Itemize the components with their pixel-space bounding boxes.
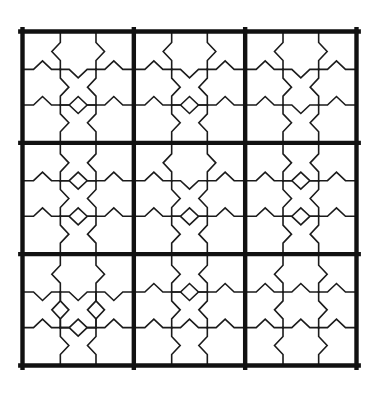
cell-1-1-edge-vC-L bbox=[172, 216, 181, 252]
cell-1-0-edge-vB-L bbox=[60, 181, 68, 217]
cell-2-2-edge-vC-R bbox=[319, 328, 328, 364]
cell-0-1-edge-h1-M bbox=[172, 69, 208, 78]
cell-0-2-edge-vC-L bbox=[283, 105, 292, 141]
cell-0-1-edge-vC-L bbox=[172, 105, 181, 141]
cell-1-0-edge-h1-M-b bbox=[60, 181, 96, 190]
cell-0-0-edge-vB-L bbox=[60, 69, 68, 105]
cell-1-1-edge-h2-M-a bbox=[172, 208, 208, 217]
cell-0-1-edge-h2-R bbox=[207, 96, 243, 105]
cell-0-0-edge-h1-L bbox=[25, 61, 61, 69]
cell-1-2-edge-vB-L bbox=[283, 181, 292, 217]
cell-2-2-edge-h1-M bbox=[283, 284, 319, 293]
cell-2-1-edge-vC-L bbox=[172, 328, 181, 364]
cell-1-0-edge-vA-L bbox=[60, 145, 68, 181]
cell-0-0-edge-h2-M-a bbox=[60, 96, 96, 105]
cell-2-2-edge-vB-R bbox=[319, 292, 328, 328]
cell-0-0-edge-vB-R bbox=[87, 69, 96, 105]
cell-2-0-edge-h1-M bbox=[60, 292, 96, 301]
cell-0-2-edge-h2-M bbox=[283, 105, 319, 114]
cell-1-0-edge-h2-M-a bbox=[60, 208, 96, 217]
cell-0-2-edge-h1-L bbox=[247, 61, 283, 69]
cell-2-1-edge-h2-M bbox=[172, 319, 208, 328]
cell-0-2-edge-vB-R bbox=[310, 69, 319, 105]
cell-2-0-edge-vC-L bbox=[60, 328, 68, 364]
cell-2-2-edge-h2-L bbox=[247, 319, 283, 328]
cell-2-2-edge-h2-M bbox=[283, 319, 319, 328]
cell-1-1-edge-vC-R bbox=[199, 216, 208, 252]
cell-1-2-edge-vA-L bbox=[283, 145, 292, 181]
cell-0-1-edge-vB-L bbox=[172, 69, 181, 105]
cell-2-1-edge-h2-L bbox=[136, 319, 172, 328]
cell-0-2-edge-h1-R bbox=[319, 61, 355, 69]
cell-2-1-edge-vC-R bbox=[199, 328, 208, 364]
cell-2-0-edge-h2-M-a bbox=[60, 319, 96, 328]
cell-2-1-edge-h2-R bbox=[207, 319, 243, 328]
cell-2-0-edge-vC-R bbox=[87, 328, 96, 364]
tiling-svg bbox=[0, 0, 378, 404]
cell-1-2-edge-vB-R bbox=[310, 181, 319, 217]
cell-0-1-edge-h2-M-b bbox=[172, 105, 208, 114]
cell-0-0-edge-h1-M bbox=[60, 69, 96, 78]
cell-1-2-edge-vC-R bbox=[310, 216, 319, 252]
cell-1-2-edge-vA-R bbox=[310, 145, 319, 181]
cell-1-1-edge-h1-M bbox=[172, 181, 208, 190]
cell-1-0-edge-h1-R bbox=[96, 172, 132, 181]
cell-0-1-edge-vB-R bbox=[199, 69, 208, 105]
cell-1-0-edge-h2-R bbox=[96, 208, 132, 217]
cell-1-1-edge-h1-L bbox=[136, 172, 172, 181]
cell-2-1-edge-vB-L bbox=[172, 292, 181, 328]
cell-2-1-edge-h1-L bbox=[136, 284, 172, 293]
cell-2-1-edge-h1-M-a bbox=[172, 284, 208, 293]
cell-2-0-edge-h2-R bbox=[96, 319, 132, 328]
cell-1-2-edge-h1-L bbox=[247, 172, 283, 181]
cell-1-0-edge-h1-M-a bbox=[60, 172, 96, 181]
cell-0-1-edge-h1-R bbox=[207, 61, 243, 69]
cell-2-2-edge-h1-L bbox=[247, 284, 283, 293]
cell-2-2-edge-vC-L bbox=[275, 328, 284, 364]
cell-1-1-edge-vB-L bbox=[172, 181, 181, 217]
cell-2-1-edge-vB-R bbox=[199, 292, 208, 328]
cell-2-0-edge-h2-M-b bbox=[60, 328, 96, 337]
cell-0-1-edge-vA-R bbox=[207, 34, 216, 70]
cell-0-2-edge-h2-R bbox=[319, 96, 355, 105]
cell-0-1-edge-vA-L bbox=[163, 34, 172, 70]
cell-0-1-edge-h2-L bbox=[136, 96, 172, 105]
cell-1-1-edge-vB-R bbox=[199, 181, 208, 217]
cell-1-0-edge-vC-R bbox=[87, 216, 96, 252]
cell-0-1-edge-h1-L bbox=[136, 61, 172, 69]
cell-1-2-edge-h2-M-a bbox=[283, 208, 319, 217]
cell-1-0-edge-vC-L bbox=[60, 216, 68, 252]
cell-2-0-edge-h2-L bbox=[25, 319, 61, 328]
cell-2-2-edge-vA-L bbox=[275, 256, 284, 292]
cell-2-0-edge-vB-R-a bbox=[87, 292, 96, 328]
cell-2-0-edge-h1-L bbox=[25, 292, 61, 301]
cell-0-2-edge-vB-L bbox=[283, 69, 292, 105]
cell-2-1-edge-h1-R bbox=[207, 284, 243, 293]
cell-1-0-edge-h2-M-b bbox=[60, 216, 96, 225]
cell-1-0-edge-h1-L bbox=[25, 172, 61, 181]
cell-1-1-edge-h2-R bbox=[207, 208, 243, 217]
page bbox=[0, 0, 378, 404]
cell-0-0-edge-h2-M-b bbox=[60, 105, 96, 114]
cell-1-2-edge-h2-R bbox=[319, 208, 355, 217]
cell-1-0-edge-h2-L bbox=[25, 208, 61, 217]
cell-2-0-edge-vB-R-b bbox=[96, 292, 105, 328]
cell-1-1-edge-h1-R bbox=[207, 172, 243, 181]
cell-1-2-edge-h2-M-b bbox=[283, 216, 319, 225]
cell-0-0-edge-vA-L bbox=[52, 34, 61, 70]
cell-1-1-edge-vA-R bbox=[207, 145, 216, 181]
cell-2-0-edge-h1-R bbox=[96, 292, 132, 301]
cell-0-2-edge-vC-R bbox=[310, 105, 319, 141]
cell-2-1-edge-h1-M-b bbox=[172, 292, 208, 301]
cell-0-0-edge-vC-R bbox=[87, 105, 96, 141]
cell-1-1-edge-h2-M-b bbox=[172, 216, 208, 225]
cell-1-1-edge-h2-L bbox=[136, 208, 172, 217]
cell-0-2-edge-h2-L bbox=[247, 96, 283, 105]
cell-0-2-edge-vA-L bbox=[275, 34, 284, 70]
cell-0-1-edge-vC-R bbox=[199, 105, 208, 141]
cell-2-1-edge-vA-L bbox=[172, 256, 181, 292]
cell-2-2-edge-vA-R bbox=[319, 256, 328, 292]
cell-0-0-edge-vC-L bbox=[60, 105, 68, 141]
cell-1-0-edge-vB-R bbox=[87, 181, 96, 217]
cell-1-2-edge-h1-M-a bbox=[283, 172, 319, 181]
